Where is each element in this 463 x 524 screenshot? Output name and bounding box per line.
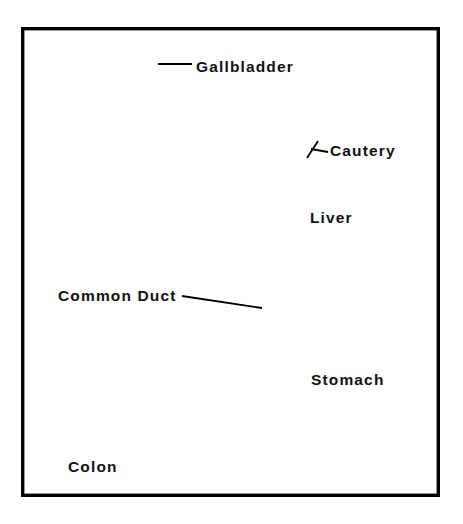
label-gallbladder: Gallbladder [196, 58, 294, 75]
illustration-frame [23, 29, 439, 496]
label-common-duct: Common Duct [58, 287, 177, 304]
label-stomach: Stomach [311, 371, 385, 388]
medical-illustration: Gallbladder Cautery Liver Common Duct St… [0, 0, 463, 524]
label-cautery: Cautery [330, 142, 396, 159]
label-liver: Liver [310, 209, 353, 226]
anatomy-figure: Gallbladder Cautery Liver Common Duct St… [0, 0, 463, 524]
label-colon: Colon [68, 458, 118, 475]
